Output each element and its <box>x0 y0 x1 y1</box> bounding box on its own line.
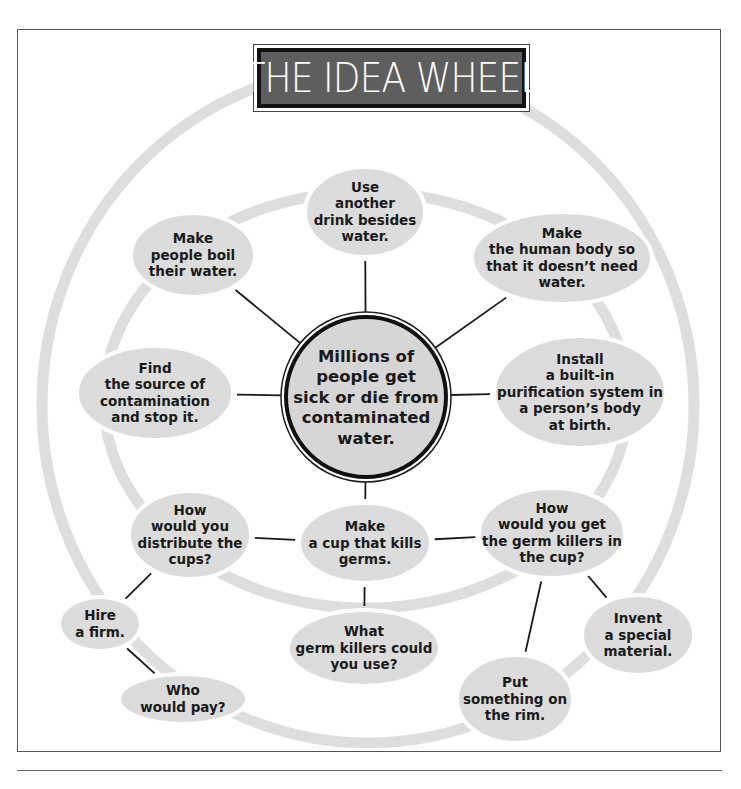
bottom-divider <box>17 770 722 771</box>
bubble-text-line: another <box>335 195 395 211</box>
connector-make-cup-to-get-germ-killers <box>435 537 476 539</box>
bubble-text-line: Who <box>166 682 200 698</box>
bubble-text-line: water. <box>341 228 388 244</box>
center-text-line: contaminated <box>302 408 431 427</box>
bubble-text-line: you use? <box>330 656 397 672</box>
connector-make-cup-to-distribute-cups <box>255 538 295 540</box>
bubble-text-line: water. <box>538 274 585 290</box>
idea-bubble-install-purification: Installa built-inpurification system ina… <box>494 336 666 448</box>
center-text-line: people get <box>316 367 416 386</box>
bubble-text-line: the cup? <box>519 549 584 565</box>
title-banner: THE IDEA WHEEL <box>253 44 530 112</box>
connector-get-germ-killers-to-invent-material <box>588 576 606 598</box>
bubble-text-line: that it doesn’t need <box>486 258 638 274</box>
center-text-line: water. <box>337 429 395 448</box>
connector-center-to-install-purification <box>451 394 490 395</box>
bubble-text-line: How <box>535 500 568 516</box>
idea-bubble-put-on-rim: Putsomething onthe rim. <box>457 655 573 743</box>
bubble-text-line: would you get <box>498 516 607 532</box>
bubble-text-line: germ killers could <box>296 640 433 656</box>
idea-bubble-distribute-cups: Howwould youdistribute thecups? <box>129 491 251 579</box>
bubble-text-line: would you <box>151 518 229 534</box>
connector-center-to-boil-water <box>236 290 301 343</box>
bubble-text-line: Make <box>173 230 213 246</box>
idea-bubble-human-body: Makethe human body sothat it doesn’t nee… <box>472 212 652 304</box>
bubble-text-line: purification system in <box>497 384 663 400</box>
page-title: THE IDEA WHEEL <box>243 55 539 101</box>
bubble-text-line: contamination <box>100 393 210 409</box>
bubble-text-line: How <box>173 502 206 518</box>
idea-bubble-who-would-pay: Whowould pay? <box>119 674 247 724</box>
connector-get-germ-killers-to-put-on-rim <box>526 581 542 651</box>
bubble-text-line: material. <box>604 643 673 659</box>
bubble-text: Inventa specialmaterial. <box>604 610 673 659</box>
connector-distribute-cups-to-hire-firm <box>126 573 152 598</box>
bubble-text-line: their water. <box>149 263 237 279</box>
bubble-text-line: at birth. <box>549 417 611 433</box>
bubble-text-line: What <box>344 623 385 639</box>
idea-bubble-what-germ-killers: Whatgerm killers couldyou use? <box>288 610 440 686</box>
bubble-text-line: drink besides <box>314 212 417 228</box>
connector-center-to-find-source <box>237 395 281 396</box>
bubble-text-line: Put <box>502 674 529 690</box>
idea-wheel-diagram: Useanotherdrink besideswater.Makepeople … <box>0 0 741 789</box>
bubble-text-line: the rim. <box>485 707 545 723</box>
bubble-text-line: something on <box>463 691 567 707</box>
bubble-text-line: Install <box>556 351 604 367</box>
bubble-text-line: Hire <box>84 607 116 623</box>
bubble-text-line: the human body so <box>489 241 635 257</box>
center-text-line: Millions of <box>318 347 415 366</box>
idea-bubble-hire-firm: Hirea firm. <box>59 597 141 651</box>
bubble-text-line: the germ killers in <box>482 533 622 549</box>
idea-bubble-make-cup: Makea cup that killsgerms. <box>299 503 431 583</box>
bubble-text-line: would pay? <box>140 699 225 715</box>
center-text-line: sick or die from <box>293 388 438 407</box>
idea-wheel-page: Useanotherdrink besideswater.Makepeople … <box>0 0 741 789</box>
bubble-text-line: cups? <box>168 551 211 567</box>
bubble-text-line: Find <box>138 360 171 376</box>
bubble-text-line: Use <box>351 179 379 195</box>
connector-center-to-human-body <box>435 298 506 348</box>
idea-bubble-boil-water: Makepeople boiltheir water. <box>131 213 255 297</box>
bubble-text-line: people boil <box>151 247 235 263</box>
idea-bubble-invent-material: Inventa specialmaterial. <box>582 595 694 675</box>
central-problem: Millions ofpeople getsick or die fromcon… <box>281 312 451 482</box>
bubble-text-line: a special <box>604 627 671 643</box>
bubble-text-line: Make <box>345 518 385 534</box>
bubble-text-line: a cup that kills <box>308 535 421 551</box>
bubble-text-line: a firm. <box>75 624 125 640</box>
bubble-text-line: a built-in <box>546 367 615 383</box>
bubble-text-line: Invent <box>614 610 663 626</box>
idea-bubble-get-germ-killers: Howwould you getthe germ killers inthe c… <box>479 488 625 578</box>
bubble-text-line: the source of <box>105 376 206 392</box>
bubble-text-line: germs. <box>339 551 392 567</box>
bubble-text-line: distribute the <box>138 535 243 551</box>
idea-bubble-find-source: Findthe source ofcontaminationand stop i… <box>77 346 233 440</box>
bubble-text-line: and stop it. <box>111 409 198 425</box>
bubble-text-line: a person’s body <box>519 400 641 416</box>
bubble-text-line: Make <box>542 225 582 241</box>
idea-bubble-use-another-drink: Useanotherdrink besideswater. <box>305 167 425 257</box>
